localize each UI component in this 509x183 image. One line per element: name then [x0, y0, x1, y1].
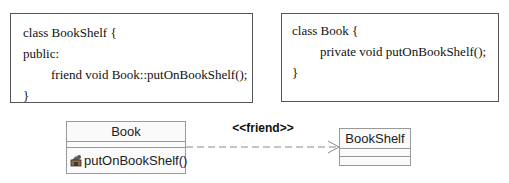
stereotype-label: <<friend>> — [222, 121, 304, 135]
friend-dependency-edge[interactable] — [0, 0, 509, 183]
